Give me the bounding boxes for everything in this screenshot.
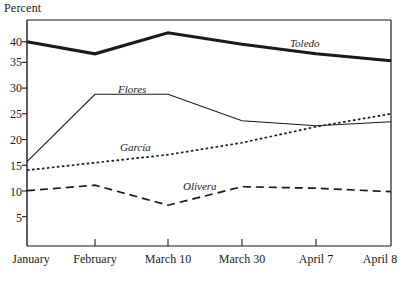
series-line-flores <box>27 94 391 161</box>
y-axis-ticks <box>22 42 27 217</box>
x-axis-ticks <box>95 239 316 246</box>
axis-frame <box>27 20 391 246</box>
series-line-garcia <box>27 114 391 170</box>
line-chart: Percent 40 35 30 25 20 15 10 5 January F… <box>0 0 406 283</box>
plot-area <box>0 0 406 283</box>
series-line-olivera <box>27 185 391 205</box>
series-line-toledo <box>27 33 391 61</box>
